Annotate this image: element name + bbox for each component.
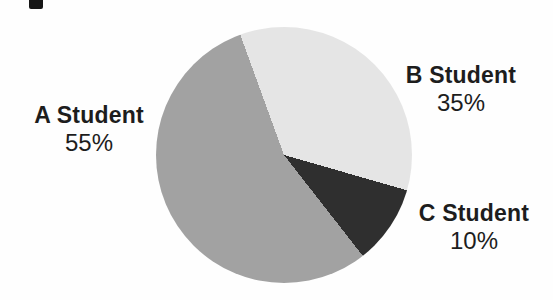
slice-label-c-percent: 10% [414,227,534,255]
slice-label-a-name: A Student [29,101,149,129]
scan-artifact-mark [29,0,43,9]
slice-label-b-percent: 35% [401,89,521,117]
slice-label-b-name: B Student [401,61,521,89]
slice-label-a-percent: 55% [29,129,149,157]
slice-label-c-name: C Student [414,199,534,227]
pie-chart-figure: A Student 55% B Student 35% C Student 10… [0,0,553,300]
slice-label-a-student: A Student 55% [29,101,149,157]
slice-label-c-student: C Student 10% [414,199,534,255]
slice-label-b-student: B Student 35% [401,61,521,117]
pie-chart [156,27,412,283]
